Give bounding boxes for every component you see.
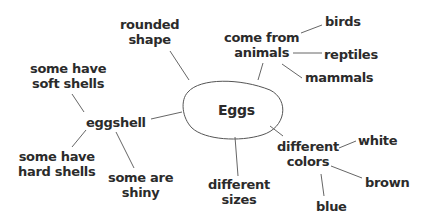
- node-text-line: some are: [108, 170, 173, 185]
- node-white: white: [358, 133, 397, 148]
- node-text-line: shape: [120, 32, 179, 47]
- node-text-line: shiny: [108, 185, 173, 200]
- node-text-line: sizes: [208, 192, 270, 207]
- node-text-line: colors: [277, 154, 339, 169]
- node-text-line: some have: [30, 61, 106, 76]
- node-reptiles: reptiles: [324, 47, 378, 62]
- node-text-line: different: [277, 139, 339, 154]
- node-text-line: hard shells: [18, 164, 95, 179]
- node-some-are-shiny: some are shiny: [108, 170, 173, 200]
- center-node-eggs: Eggs: [218, 103, 255, 118]
- node-mammals: mammals: [305, 70, 373, 85]
- node-text-line: rounded: [120, 17, 179, 32]
- node-come-from-animals: come from animals: [224, 30, 299, 60]
- node-text-line: soft shells: [30, 76, 106, 91]
- node-birds: birds: [325, 14, 361, 29]
- node-some-have-hard-shells: some have hard shells: [18, 149, 95, 179]
- node-different-sizes: different sizes: [208, 177, 270, 207]
- node-different-colors: different colors: [277, 139, 339, 169]
- node-text-line: animals: [224, 45, 299, 60]
- concept-web-diagram: Eggs rounded shape come from animals bir…: [0, 0, 425, 221]
- node-brown: brown: [365, 175, 409, 190]
- node-text-line: come from: [224, 30, 299, 45]
- node-eggshell: eggshell: [86, 115, 146, 130]
- node-rounded-shape: rounded shape: [120, 17, 179, 47]
- node-text-line: different: [208, 177, 270, 192]
- node-text-line: some have: [18, 149, 95, 164]
- node-blue: blue: [316, 199, 347, 214]
- node-some-have-soft-shells: some have soft shells: [30, 61, 106, 91]
